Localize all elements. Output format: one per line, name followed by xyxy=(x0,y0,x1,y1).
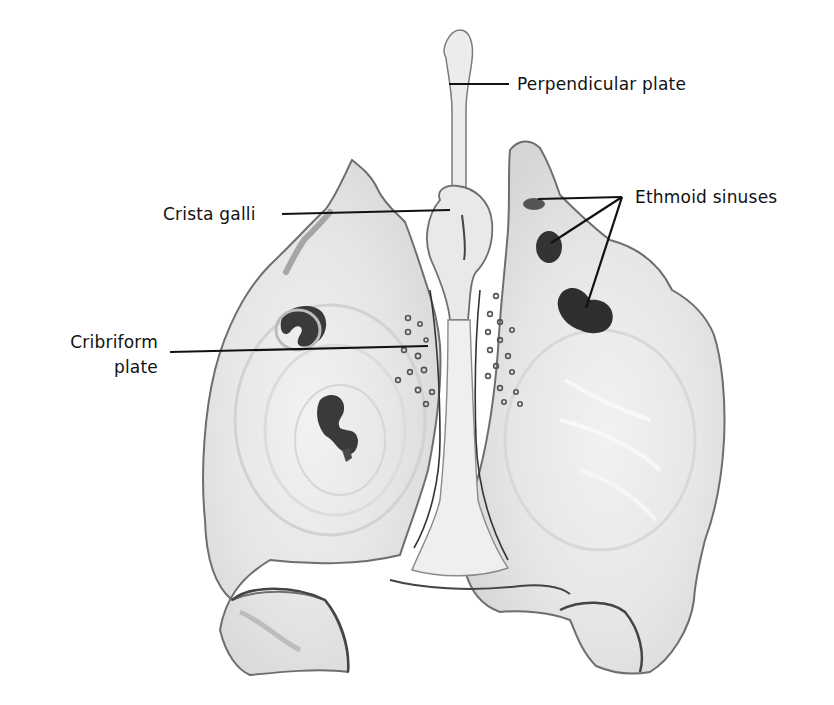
label-ethmoid-sinuses: Ethmoid sinuses xyxy=(635,186,777,208)
left-lateral-mass xyxy=(203,160,440,675)
label-cribriform-plate-line1: Cribriform xyxy=(40,331,158,353)
sinus-middle xyxy=(536,231,562,263)
label-cribriform-plate-line2: plate xyxy=(40,356,158,378)
label-crista-galli: Crista galli xyxy=(163,203,256,225)
label-perpendicular-plate: Perpendicular plate xyxy=(517,73,686,95)
ethmoid-bone-diagram: Perpendicular plate Crista galli Ethmoid… xyxy=(0,0,834,705)
right-lateral-mass xyxy=(464,141,724,673)
